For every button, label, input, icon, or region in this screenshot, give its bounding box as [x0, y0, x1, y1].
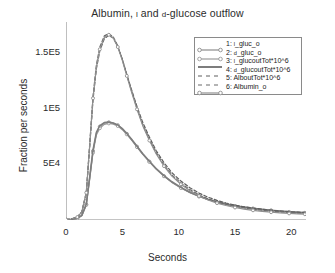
x-axis-title: Seconds: [0, 252, 335, 263]
chart-title: Albumin, l and d-glucose outflow: [0, 7, 335, 19]
legend-label-5: 5: AlboutTot*10^6: [223, 74, 280, 83]
series-marker-6: [136, 108, 139, 111]
series-marker-6: [163, 165, 166, 168]
x-tick-label: 20: [279, 226, 303, 237]
series-marker-6: [66, 218, 68, 220]
legend-item-4[interactable]: 4: d_glucoutTot*10^6: [197, 66, 298, 75]
legend-item-3[interactable]: 3: l_glucoutTot*10^6: [197, 57, 298, 66]
y-tick-label: 5E4: [14, 157, 60, 168]
legend-marker-6: [219, 91, 223, 95]
legend-swatch-4: [197, 66, 223, 74]
series-marker-6: [107, 33, 110, 36]
series-marker-6: [270, 211, 273, 214]
series-marker-6: [85, 191, 88, 194]
series-marker-6: [252, 209, 255, 212]
legend-marker-6: [198, 91, 202, 95]
series-marker-6: [116, 46, 119, 49]
legend-swatch-6: [197, 83, 223, 91]
legend-swatch-5: [197, 75, 223, 83]
series-line-2: [66, 123, 305, 219]
legend-item-1[interactable]: 1: l_gluc_o: [197, 40, 298, 49]
legend-label-1: 1: l_gluc_o: [223, 40, 260, 49]
legend-label-3: 3: l_glucoutTot*10^6: [223, 57, 289, 66]
y-tick-label: 1.5E5: [14, 46, 60, 57]
legend-swatch-3: [197, 57, 223, 65]
series-marker-6: [179, 183, 182, 186]
series-marker-6: [216, 202, 219, 205]
series-marker-6: [98, 48, 101, 51]
legend-item-6[interactable]: 6: Albumin_o: [197, 83, 298, 92]
series-marker-6: [148, 139, 151, 142]
x-tick-label: 10: [167, 226, 191, 237]
series-line-1: [66, 122, 305, 219]
legend-swatch-2: [197, 49, 223, 57]
legend-item-5[interactable]: 5: AlboutTot*10^6: [197, 74, 298, 83]
x-tick-label: 0: [54, 226, 78, 237]
legend-label-2: 2: d_gluc_o: [223, 49, 261, 58]
series-marker-6: [76, 216, 79, 219]
series-marker-6: [288, 212, 291, 215]
chart-figure: Albumin, l and d-glucose outflow Fractio…: [0, 0, 335, 273]
legend-label-4: 4: d_glucoutTot*10^6: [223, 66, 290, 75]
series-marker-6: [303, 213, 306, 216]
y-tick-label: 1E5: [14, 102, 60, 113]
series-marker-6: [92, 97, 95, 100]
series-marker-6: [125, 74, 128, 77]
x-tick-label: 15: [223, 226, 247, 237]
chart-title-mid: and: [138, 7, 162, 19]
legend-swatch-1: [197, 40, 223, 48]
series-line-3: [66, 122, 305, 220]
series-marker-6: [234, 206, 237, 209]
y-axis-title: Fraction per seconds: [18, 51, 29, 201]
chart-title-post: -glucose outflow: [166, 7, 243, 19]
chart-title-pre: Albumin,: [91, 7, 136, 19]
series-marker-6: [198, 195, 201, 198]
x-tick-label: 5: [110, 226, 134, 237]
legend-label-6: 6: Albumin_o: [223, 83, 266, 92]
legend-item-2[interactable]: 2: d_gluc_o: [197, 49, 298, 58]
legend: 1: l_gluc_o2: d_gluc_o3: l_glucoutTot*10…: [194, 37, 302, 95]
